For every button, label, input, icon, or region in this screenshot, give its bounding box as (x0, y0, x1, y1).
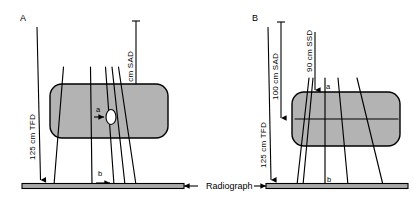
panel-b-sad-label: 100 cm SAD (271, 53, 280, 100)
panel-a-tfd-axis (37, 27, 41, 180)
panel-b-tfd-axis (268, 27, 271, 180)
panel-a-lesion (106, 110, 116, 125)
panel-a-radiograph-film (22, 184, 184, 189)
center-radiograph-annotation: Radiograph (184, 181, 266, 191)
panel-b-ssd-label: 90 cm SSD (305, 30, 314, 72)
panel-a-tfd-label: 125 cm TFD (28, 114, 37, 160)
panel-b-label: B (252, 13, 258, 23)
radiograph-label: Radiograph (206, 181, 253, 191)
panel-b: B 125 cm TFD 100 cm SAD 90 cm SSD a b (252, 13, 408, 189)
panel-b-point-b-label: b (327, 175, 331, 184)
panel-b-tfd-label: 125 cm TFD (259, 122, 268, 168)
panel-a-label: A (20, 13, 26, 23)
radiographic-geometry-figure: A 125 cm TFD 100 cm SAD a b Radiograph (0, 0, 414, 205)
panel-b-radiograph-film (266, 184, 408, 189)
panel-a-point-b-label: b (98, 169, 102, 178)
panel-b-point-a-label: a (326, 82, 331, 91)
panel-a: A 125 cm TFD 100 cm SAD a b (20, 13, 184, 189)
